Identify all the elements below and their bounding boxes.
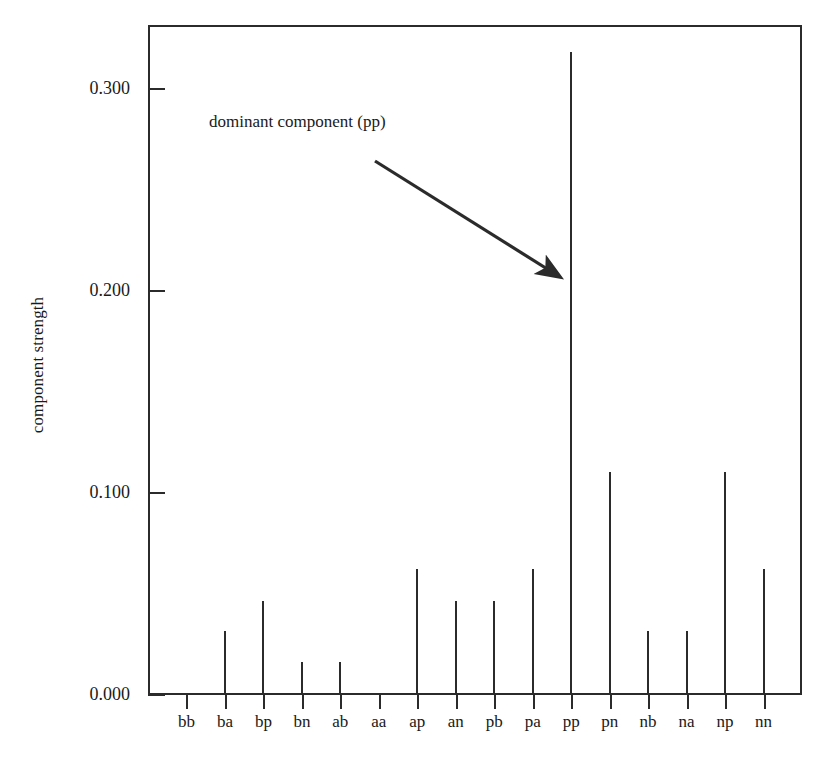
bar-an: [455, 601, 457, 694]
bar-pb: [493, 601, 495, 694]
x-tick-mark: [263, 695, 265, 709]
y-tick-label: 0.000: [50, 684, 130, 705]
component-strength-chart: component strength 0.0000.1000.2000.300 …: [0, 0, 827, 770]
x-tick-mark: [571, 695, 573, 709]
bar-ab: [339, 662, 341, 694]
bar-pp: [570, 52, 572, 694]
bar-ba: [224, 631, 226, 694]
x-tick-mark: [417, 695, 419, 709]
y-axis-title: component strength: [28, 215, 48, 515]
x-tick-mark: [533, 695, 535, 709]
x-tick-mark: [302, 695, 304, 709]
y-tick-mark: [148, 492, 165, 494]
annotation-label-dominant-component: dominant component (pp): [209, 112, 386, 132]
y-tick-mark: [148, 88, 165, 90]
x-tick-mark: [648, 695, 650, 709]
y-tick-label: 0.300: [50, 78, 130, 99]
x-tick-mark: [379, 695, 381, 709]
bar-bp: [262, 601, 264, 694]
x-tick-mark: [764, 695, 766, 709]
x-tick-mark: [456, 695, 458, 709]
x-tick-mark: [725, 695, 727, 709]
y-tick-label: 0.100: [50, 482, 130, 503]
x-tick-mark: [494, 695, 496, 709]
x-tick-mark: [340, 695, 342, 709]
bar-na: [686, 631, 688, 694]
x-tick-label-nn: nn: [734, 712, 794, 732]
bar-bn: [301, 662, 303, 694]
bar-pn: [609, 472, 611, 694]
y-tick-label: 0.200: [50, 280, 130, 301]
bar-pa: [532, 569, 534, 694]
bar-nn: [763, 569, 765, 694]
x-tick-mark: [610, 695, 612, 709]
x-tick-mark: [687, 695, 689, 709]
bar-np: [724, 472, 726, 694]
bar-ap: [416, 569, 418, 694]
x-tick-mark: [225, 695, 227, 709]
bar-nb: [647, 631, 649, 694]
y-tick-mark: [148, 290, 165, 292]
x-tick-mark: [186, 695, 188, 709]
y-tick-mark: [148, 694, 165, 696]
